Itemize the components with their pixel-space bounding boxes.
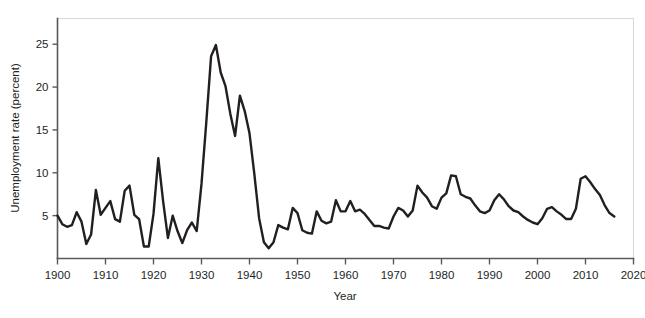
x-tick-label: 1910 [93,269,119,281]
x-tick-label: 1980 [429,269,455,281]
plot-frame [58,19,634,259]
x-tick-label: 1900 [45,269,71,281]
x-tick-label: 1950 [285,269,311,281]
y-axis-ticks: 510152025 [36,38,58,221]
y-tick-label: 25 [36,38,49,50]
axes [58,19,634,259]
unemployment-rate-line-chart: 510152025 190019101920193019401950196019… [0,0,645,318]
x-tick-label: 2000 [525,269,551,281]
y-tick-label: 5 [42,210,48,222]
x-axis-title: Year [333,290,356,302]
y-tick-label: 20 [36,81,49,93]
x-tick-label: 2020 [621,269,645,281]
x-tick-label: 1970 [381,269,407,281]
x-tick-label: 1960 [333,269,359,281]
x-tick-label: 1990 [477,269,503,281]
y-axis-title: Unemployment rate (percent) [9,63,21,213]
x-tick-label: 2010 [573,269,599,281]
chart-figure: 510152025 190019101920193019401950196019… [0,0,645,318]
y-tick-label: 10 [36,167,49,179]
x-tick-label: 1940 [237,269,263,281]
series-unemployment-rate [58,45,615,248]
x-axis-ticks: 1900191019201930194019501960197019801990… [45,259,645,281]
x-tick-label: 1930 [189,269,215,281]
x-tick-label: 1920 [141,269,167,281]
y-tick-label: 15 [36,124,49,136]
